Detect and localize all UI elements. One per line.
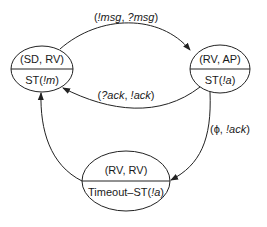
node-top-label: (RV, AP)	[199, 53, 241, 65]
node-top-label: (RV, RV)	[105, 164, 148, 176]
edge-label-msg: (!msg, ?msg)	[94, 11, 158, 23]
edge-rv-rv-to-sd-rv	[41, 93, 82, 181]
edge-label-phi-ack: (ϕ, !ack)	[210, 123, 250, 135]
state-node-rv-rv: (RV, RV) Timeout–ST(!a)	[82, 151, 170, 211]
edge-sd-rv-to-rv-ap	[60, 23, 190, 50]
state-node-sd-rv: (SD, RV) ST(!m)	[11, 46, 73, 92]
node-bottom-label: ST(!a)	[205, 74, 236, 86]
state-diagram: (SD, RV) ST(!m) (RV, AP) ST(!a) (RV, RV)…	[0, 0, 267, 227]
node-top-label: (SD, RV)	[20, 53, 64, 65]
node-bottom-label: Timeout–ST(!a)	[88, 186, 164, 198]
edge-label-ack: (?ack, !ack)	[98, 89, 155, 101]
node-bottom-label: ST(!m)	[25, 74, 59, 86]
state-node-rv-ap: (RV, AP) ST(!a)	[190, 45, 250, 93]
edge-rv-ap-to-rv-rv	[171, 92, 210, 180]
